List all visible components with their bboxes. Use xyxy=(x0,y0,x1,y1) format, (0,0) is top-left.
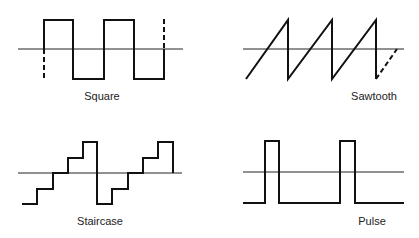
square-waveform xyxy=(18,19,183,80)
pulse-waveform xyxy=(243,141,404,203)
sawtooth-dashed-end xyxy=(376,49,397,79)
pulse-label: Pulse xyxy=(322,215,419,227)
staircase-waveform xyxy=(18,142,182,204)
sawtooth-label: Sawtooth xyxy=(324,90,419,102)
waveform-diagram xyxy=(0,0,419,238)
staircase-label: Staircase xyxy=(50,215,150,227)
sawtooth-waveform xyxy=(243,20,404,79)
square-label: Square xyxy=(52,90,152,102)
